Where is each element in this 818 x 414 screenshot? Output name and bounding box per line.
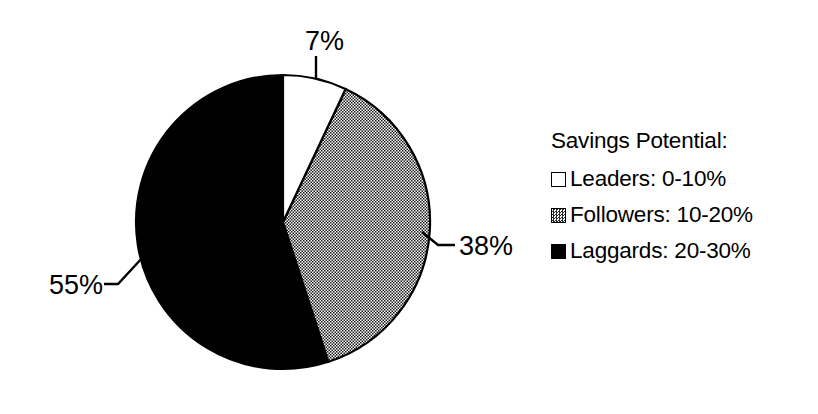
legend-item-label: Laggards: 20-30% — [570, 239, 751, 263]
gray-square-icon — [551, 208, 566, 223]
slice-label-followers: 38% — [459, 231, 513, 261]
leader-line-laggards — [104, 257, 143, 284]
legend-item-followers: Followers: 10-20% — [551, 201, 801, 229]
legend-item-leaders: Leaders: 0-10% — [551, 165, 801, 193]
legend-title: Savings Potential: — [551, 128, 801, 154]
pie-chart-figure: 7% 38% 55% Savings Potential: Leaders: 0… — [0, 0, 818, 414]
white-square-icon — [551, 172, 566, 187]
legend-item-label: Followers: 10-20% — [570, 203, 753, 227]
slice-label-leaders: 7% — [305, 26, 344, 56]
chart-legend: Savings Potential: Leaders: 0-10% Follow… — [551, 128, 801, 273]
black-square-icon — [551, 244, 566, 259]
legend-item-label: Leaders: 0-10% — [570, 167, 726, 191]
legend-item-laggards: Laggards: 20-30% — [551, 237, 801, 265]
slice-label-laggards: 55% — [49, 270, 103, 300]
